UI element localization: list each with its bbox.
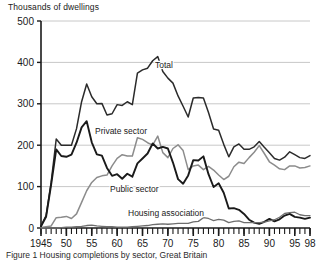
y-tick-label: 500 [17, 16, 34, 27]
x-tick-label: 60 [112, 238, 124, 249]
x-tick-label: 50 [61, 238, 73, 249]
x-tick-label: 80 [213, 238, 225, 249]
x-axis-tick-labels-group: 19455055606570758085909598 [30, 238, 316, 249]
line-chart-svg: 0100200300400500 19455055606570758085909… [0, 0, 320, 250]
x-tick-label: 55 [86, 238, 98, 249]
x-tick-label: 90 [264, 238, 276, 249]
x-tick-label: 95 [289, 238, 301, 249]
y-tick-label: 400 [17, 57, 34, 68]
x-tick-label: 85 [238, 238, 250, 249]
y-tick-label: 200 [17, 140, 34, 151]
housing-completions-figure: Thousands of dwellings 0100200300400500 … [0, 0, 320, 262]
series-line-total [41, 57, 310, 226]
series-label-housing-association: Housing association [128, 208, 204, 218]
figure-caption: Figure 1 Housing completions by sector, … [6, 250, 316, 261]
y-tick-label: 100 [17, 181, 34, 192]
y-tick-label: 0 [28, 223, 34, 234]
data-series-group [41, 57, 310, 228]
series-label-total: Total [155, 60, 173, 70]
x-tick-label: 1945 [30, 238, 53, 249]
x-tick-label: 75 [188, 238, 200, 249]
y-tick-label: 300 [17, 98, 34, 109]
x-tick-label: 65 [137, 238, 149, 249]
series-inline-labels-group: TotalTotalPrivate sectorPrivate sectorPu… [95, 60, 204, 218]
y-axis-tick-labels-group: 0100200300400500 [17, 16, 34, 234]
x-tick-label: 98 [304, 238, 316, 249]
series-label-private-sector: Private sector [95, 126, 147, 136]
x-tick-label: 70 [162, 238, 174, 249]
series-label-public-sector: Public sector [110, 184, 159, 194]
y-axis-title: Thousands of dwellings [8, 2, 99, 12]
